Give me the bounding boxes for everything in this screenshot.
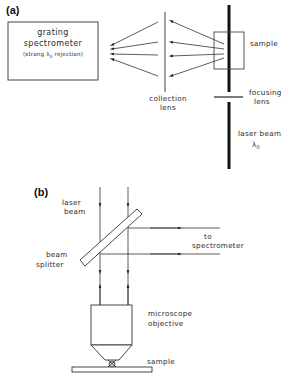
grating-spectrometer: grating spectrometer (strong λ0 rejectio… — [8, 22, 98, 80]
beam-splitter-label-1: beam — [46, 250, 68, 259]
collection-lens-label-2: lens — [160, 103, 176, 112]
spectrometer-line1: grating — [37, 28, 69, 37]
panel-b-label: (b) — [34, 186, 48, 198]
laser-beam-lambda: λ0 — [252, 140, 260, 150]
raman-setup-diagram: (a) grating spectrometer (strong λ0 reje… — [0, 0, 291, 383]
to-spectrometer-label-1: to — [204, 232, 212, 241]
spectrometer-line3: (strong λ0 rejection) — [23, 51, 83, 59]
converging-rays — [112, 22, 158, 76]
laser-beam-label: laser beam — [238, 129, 281, 138]
scattered-rays — [171, 21, 224, 76]
collection-lens-label-1: collection — [149, 94, 187, 103]
panel-b: (b) laser beam to spectrometer — [34, 186, 244, 372]
sample-label: sample — [250, 39, 278, 48]
panel-a-label: (a) — [6, 4, 20, 16]
laser-beam-label-b-1: laser — [62, 198, 81, 207]
panel-a: (a) grating spectrometer (strong λ0 reje… — [6, 4, 282, 169]
focusing-lens-label-1: focusing — [249, 88, 282, 97]
sample-slide — [72, 367, 152, 372]
beam-splitter — [80, 209, 142, 266]
beam-splitter-label-2: splitter — [36, 260, 64, 269]
laser-beam-label-b-2: beam — [64, 207, 86, 216]
microscope-objective — [91, 305, 132, 367]
sample-label-b: sample — [147, 357, 175, 366]
focusing-lens-label-2: lens — [254, 97, 270, 106]
objective-label-2: objective — [148, 319, 184, 328]
spectrometer-line2: spectrometer — [24, 39, 83, 48]
to-spectrometer-label-2: spectrometer — [192, 241, 244, 250]
objective-label-1: microscope — [148, 309, 193, 318]
